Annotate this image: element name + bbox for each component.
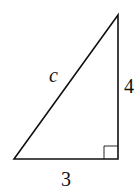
horizontal-leg-label: 3 — [61, 168, 71, 190]
triangle-diagram: c 4 3 — [0, 0, 140, 196]
vertical-leg-label: 4 — [124, 75, 134, 97]
right-angle-marker — [104, 146, 118, 159]
right-triangle — [14, 15, 118, 159]
hypotenuse-label: c — [49, 64, 58, 86]
